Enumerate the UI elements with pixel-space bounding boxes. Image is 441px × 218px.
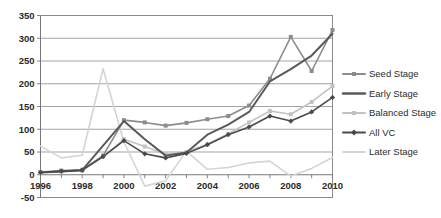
data-point-marker bbox=[289, 35, 293, 39]
y-axis-tick-label: 0 bbox=[29, 169, 34, 180]
legend-item-balanced-stage[interactable]: Balanced Stage bbox=[343, 107, 436, 118]
x-axis-tick-label: 1998 bbox=[72, 180, 93, 191]
legend-swatch-marker bbox=[351, 130, 357, 136]
y-axis-tick-label: 50 bbox=[24, 146, 35, 157]
series-group bbox=[38, 28, 335, 186]
xtick-labels-group: 19961998200020022004200620082010 bbox=[30, 180, 343, 191]
legend-label: All VC bbox=[369, 127, 396, 138]
data-point-marker bbox=[247, 104, 251, 108]
ytick-labels-group: -50050100150200250300350 bbox=[19, 10, 35, 203]
data-point-marker bbox=[164, 124, 168, 128]
legend-item-seed-stage[interactable]: Seed Stage bbox=[343, 68, 419, 79]
legend-item-all-vc[interactable]: All VC bbox=[343, 127, 396, 138]
y-axis-tick-label: -50 bbox=[21, 192, 35, 203]
legend-label: Balanced Stage bbox=[369, 107, 436, 118]
y-axis-tick-label: 100 bbox=[19, 124, 35, 135]
data-point-marker bbox=[310, 69, 314, 73]
x-axis-tick-label: 2008 bbox=[280, 180, 301, 191]
legend-swatch-marker bbox=[352, 111, 356, 115]
data-point-marker bbox=[205, 117, 209, 121]
line-chart: -50050100150200250300350 199619982000200… bbox=[0, 0, 441, 218]
legend-label: Seed Stage bbox=[369, 68, 419, 79]
y-axis-tick-label: 300 bbox=[19, 33, 35, 44]
data-point-marker bbox=[268, 109, 272, 113]
data-point-marker bbox=[288, 118, 293, 123]
data-point-marker bbox=[331, 28, 335, 32]
legend-swatch-marker bbox=[352, 72, 356, 76]
data-point-marker bbox=[247, 120, 251, 124]
x-axis-tick-label: 2006 bbox=[239, 180, 260, 191]
y-axis-tick-label: 250 bbox=[19, 55, 35, 66]
data-point-marker bbox=[143, 120, 147, 124]
x-axis-tick-label: 1996 bbox=[30, 180, 51, 191]
y-axis-tick-label: 200 bbox=[19, 78, 35, 89]
data-point-marker bbox=[226, 114, 230, 118]
data-point-marker bbox=[310, 100, 314, 104]
x-axis-tick-label: 2004 bbox=[197, 180, 219, 191]
x-axis-tick-label: 2000 bbox=[113, 180, 134, 191]
data-point-marker bbox=[331, 84, 335, 88]
data-point-marker bbox=[143, 145, 147, 149]
series-line bbox=[41, 97, 333, 172]
x-axis-tick-label: 2010 bbox=[322, 180, 343, 191]
legend-item-early-stage[interactable]: Early Stage bbox=[343, 88, 418, 99]
legend-group: Seed StageEarly StageBalanced StageAll V… bbox=[343, 68, 436, 157]
data-point-marker bbox=[289, 112, 293, 116]
data-point-marker bbox=[185, 121, 189, 125]
legend-item-later-stage[interactable]: Later Stage bbox=[343, 146, 418, 157]
legend-label: Later Stage bbox=[369, 146, 418, 157]
legend-label: Early Stage bbox=[369, 88, 418, 99]
y-axis-tick-label: 350 bbox=[19, 10, 35, 21]
y-axis-tick-label: 150 bbox=[19, 101, 35, 112]
chart-canvas: -50050100150200250300350 199619982000200… bbox=[0, 0, 441, 218]
